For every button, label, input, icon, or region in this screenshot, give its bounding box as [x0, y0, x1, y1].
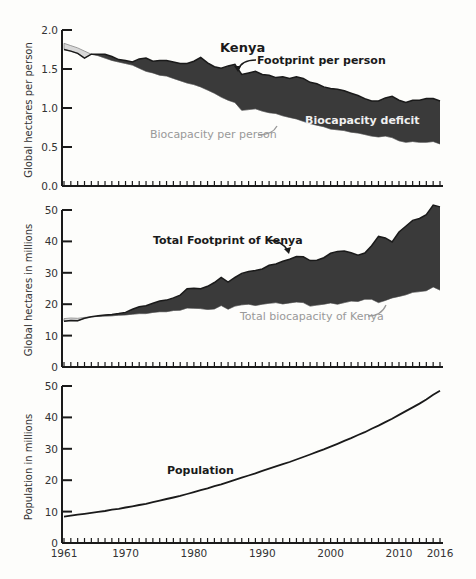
x-tick-label: 1990	[249, 547, 276, 559]
y-tick-label: 0	[51, 361, 58, 373]
annotation-biocapacity-deficit: Biocapacity deficit	[305, 114, 420, 127]
y-tick-label: 10	[45, 330, 58, 342]
y-tick-label: 0.5	[41, 141, 58, 153]
x-tick-label: 1980	[181, 547, 208, 559]
y-tick-label: 50	[45, 204, 58, 216]
arrow-footprint-per-person	[238, 60, 256, 70]
annotation-population: Population	[167, 464, 234, 477]
population-chart: Population Population in millions 010203…	[23, 380, 454, 559]
per-person-chart: Kenya Footprint per person Biocapacity d…	[23, 24, 443, 192]
y-tick-label: 10	[45, 506, 58, 518]
y-tick-label: 50	[45, 380, 58, 392]
x-tick-label: 2016	[427, 547, 454, 559]
y-tick-label: 30	[45, 267, 58, 279]
y-tick-label: 2.0	[41, 24, 58, 36]
y-tick-label: 0.0	[41, 180, 58, 192]
annotation-biocapacity-per-person: Biocapacity per person	[150, 128, 277, 141]
y-axis-title-bottom: Population in millions	[23, 414, 34, 521]
population-line	[64, 391, 440, 517]
y-tick-label: 1.5	[41, 63, 58, 75]
y-tick-label: 40	[45, 235, 58, 247]
y-tick-label: 30	[45, 443, 58, 455]
annotation-footprint-per-person: Footprint per person	[257, 54, 386, 67]
x-tick-label: 2010	[386, 547, 413, 559]
y-axis-title-middle: Global hectares in millions	[23, 224, 34, 356]
y-tick-label: 40	[45, 411, 58, 423]
annotation-total-footprint: Total Footprint of Kenya	[153, 234, 303, 247]
chart-title: Kenya	[220, 40, 265, 55]
x-tick-label: 1970	[112, 547, 139, 559]
biocapacity-deficit-area	[64, 205, 440, 321]
bottom-axis: 010203040501961197019801990200020102016	[45, 380, 454, 559]
total-areas	[64, 205, 440, 321]
x-tick-label: 2000	[317, 547, 344, 559]
x-tick-label: 1961	[51, 547, 78, 559]
y-tick-label: 20	[45, 298, 58, 310]
kenya-footprint-charts: Kenya Footprint per person Biocapacity d…	[0, 0, 476, 579]
annotation-total-biocapacity: Total biocapacity of Kenya	[239, 310, 384, 323]
population-curve	[64, 391, 440, 517]
y-tick-label: 1.0	[41, 102, 58, 114]
y-tick-label: 20	[45, 474, 58, 486]
total-chart: Total Footprint of Kenya Total biocapaci…	[23, 204, 443, 373]
y-axis-title-top: Global hectares per person	[23, 42, 34, 178]
